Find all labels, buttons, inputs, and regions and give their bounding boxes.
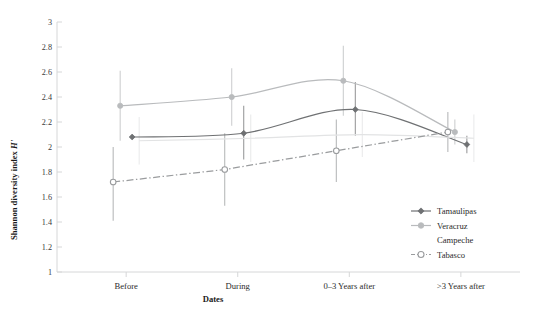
data-point-veracruz-1 (229, 94, 234, 99)
x-axis-tick-label: >3 Years after (437, 281, 485, 291)
shannon-diversity-line-chart: 11.21.41.61.822.22.42.62.83 BeforeDuring… (0, 0, 542, 313)
y-axis-tick-label: 3 (48, 18, 52, 27)
data-point-tabasco-1 (222, 167, 228, 173)
y-axis-tick-label: 1.8 (42, 168, 52, 177)
legend-label-campeche: Campeche (437, 235, 473, 245)
x-axis-tick-label: During (226, 281, 251, 291)
legend-label-veracruz: Veracruz (437, 221, 468, 231)
y-axis-tick-label: 2.8 (42, 43, 52, 52)
y-axis-tick-label: 2 (48, 143, 52, 152)
y-axis-tick-label: 2.2 (42, 118, 52, 127)
y-axis-title-text: Shannon diversity index (9, 149, 19, 240)
x-axis-tick-label: Before (114, 281, 138, 291)
data-point-veracruz-3 (452, 129, 457, 134)
x-axis-title: Dates (203, 294, 224, 304)
y-axis-tick-label: 2.4 (42, 93, 52, 102)
data-point-veracruz-2 (341, 78, 346, 83)
y-axis-tick-label: 1.6 (42, 193, 52, 202)
x-axis-tick-label: 0–3 Years after (323, 281, 375, 291)
legend-label-tabasco: Tabasco (437, 250, 465, 260)
chart-figure: 11.21.41.61.822.22.42.62.83 BeforeDuring… (0, 0, 542, 313)
legend-label-tamaulipas: Tamaulipas (437, 206, 477, 216)
y-axis-title-symbol: Hʹ (9, 139, 19, 150)
chart-background (0, 0, 542, 313)
data-point-veracruz-0 (118, 103, 123, 108)
legend-marker-veracruz (418, 223, 424, 229)
y-axis-tick-label: 1.2 (42, 243, 52, 252)
data-point-tabasco-2 (334, 148, 340, 154)
y-axis-title: Shannon diversity index Hʹ (9, 139, 19, 240)
y-axis-tick-label: 2.6 (42, 68, 52, 77)
y-axis-tick-label: 1.4 (42, 218, 52, 227)
legend-marker-tabasco (418, 252, 424, 258)
data-point-tabasco-0 (110, 179, 116, 185)
data-point-tabasco-3 (445, 129, 451, 135)
y-axis-tick-label: 1 (48, 268, 52, 277)
